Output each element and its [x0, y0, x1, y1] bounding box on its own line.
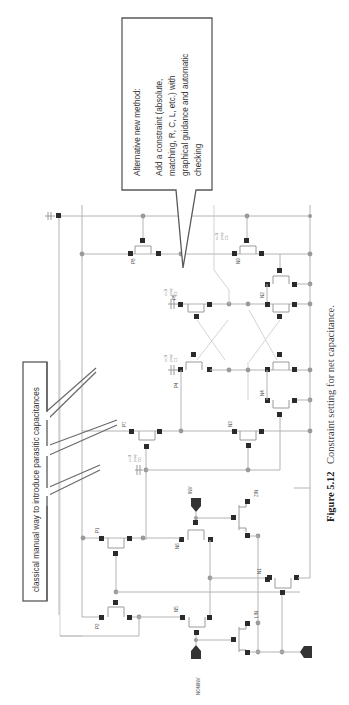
callout-new-method-line-4: checking	[194, 143, 203, 176]
label-inv: INV	[188, 486, 193, 494]
cap-c1-value: c=1f	[164, 355, 168, 362]
callout-classical: classical manual way to introduce parasi…	[23, 362, 117, 601]
cap-c3-name: C3	[225, 235, 229, 240]
figure-caption: Figure 5.12 Constraint setting for net c…	[325, 305, 336, 522]
label-p2: P2	[95, 623, 100, 629]
cap-c2-name: C2	[174, 291, 178, 296]
label-n9: N9	[236, 258, 241, 264]
callout-new-method-line-2: matching, R, C, L, etc.) with	[168, 75, 177, 176]
label-n2: N2	[260, 292, 265, 298]
label-p4: P4	[174, 382, 179, 388]
cap-c3-type: pcap	[220, 232, 224, 240]
cap-c2-type: pcap	[169, 288, 173, 296]
figure-number: Figure 5.12	[325, 471, 336, 522]
callout-new-method-title: Alternative new method:	[133, 88, 142, 176]
cap-c1-name: C1	[174, 357, 178, 362]
callout-new-method-line-1: Add a constraint (absolute,	[155, 79, 164, 176]
cap-c0-type: pcap	[133, 454, 137, 462]
label-n4: N4	[260, 390, 265, 396]
cap-c1-type: pcap	[169, 354, 173, 362]
label-p8: P8	[131, 258, 136, 264]
figure-caption-text: Constraint setting for net capacitance.	[325, 305, 336, 464]
cap-c0-name: C0	[138, 457, 142, 462]
label-n5: N5	[174, 606, 179, 612]
callout-classical-text: classical manual way to introduce parasi…	[32, 387, 41, 592]
figure-5-12: P8 N9 P5 N2 P4 N4 P7 N3 INV ZIN P1 N6 N1…	[0, 0, 349, 705]
label-zin: ZIN	[254, 490, 259, 497]
label-n1: N1	[257, 568, 262, 574]
cap-c0-value: c=1f	[128, 455, 132, 462]
label-noninv: NONINV	[196, 677, 201, 695]
label-p1: P1	[95, 527, 100, 533]
cap-c3-value: c=1f	[215, 233, 219, 240]
callout-new-method: Alternative new method: Add a constraint…	[122, 18, 212, 268]
callout-new-method-line-3: graphical guidance and automatic	[181, 54, 190, 176]
cap-c2-value: c=1f	[164, 289, 168, 296]
label-p7: P7	[122, 421, 127, 427]
label-n3: N3	[228, 421, 233, 427]
label-n6: N6	[175, 543, 180, 549]
device-labels: P8 N9 P5 N2 P4 N4 P7 N3 INV ZIN P1 N6 N1…	[95, 232, 265, 695]
label-lin: LIN	[254, 611, 259, 618]
